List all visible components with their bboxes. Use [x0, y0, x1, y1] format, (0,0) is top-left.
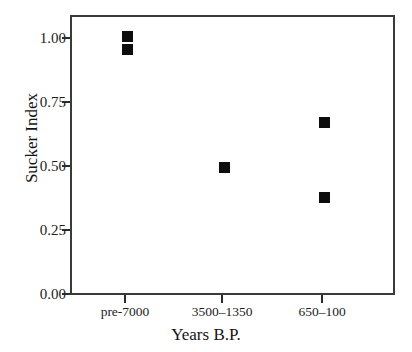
data-point-650-100-upper — [319, 117, 330, 128]
data-point-3500-1350 — [219, 162, 230, 173]
x-axis-title: Years B.P. — [0, 325, 412, 345]
x-tick-mark-pre-7000 — [124, 295, 126, 303]
x-tick-mark-650-100 — [321, 295, 323, 303]
y-tick-mark-0-50 — [62, 165, 70, 167]
data-point-650-100-lower — [319, 192, 330, 203]
y-tick-label-0-00: 0.00 — [22, 287, 66, 302]
y-tick-label-0-25: 0.25 — [22, 223, 66, 238]
scatter-plot-figure: 1.00 0.75 0.50 0.25 0.00 pre-7000 3500–1… — [0, 0, 412, 352]
data-point-pre7000-upper — [122, 31, 133, 42]
y-axis-title: Sucker Index — [22, 58, 42, 218]
y-tick-label-1-00: 1.00 — [22, 31, 66, 46]
y-tick-mark-0-00 — [62, 293, 70, 295]
data-point-pre7000-lower — [122, 44, 133, 55]
y-tick-mark-0-75 — [62, 101, 70, 103]
x-tick-mark-3500-1350 — [221, 295, 223, 303]
x-tick-label-650-100: 650–100 — [262, 305, 382, 319]
plot-area — [70, 15, 395, 295]
y-tick-mark-0-25 — [62, 229, 70, 231]
y-tick-mark-1-00 — [62, 37, 70, 39]
